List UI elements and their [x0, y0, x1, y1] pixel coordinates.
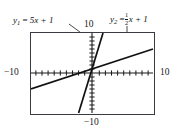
coordinate-plot-svg	[31, 33, 153, 113]
plot-area	[31, 33, 154, 114]
graph-figure: y1 = 5x + 1 y2 =12x + 1 10 −10 10 −10	[0, 0, 178, 135]
plot-frame	[30, 32, 155, 115]
